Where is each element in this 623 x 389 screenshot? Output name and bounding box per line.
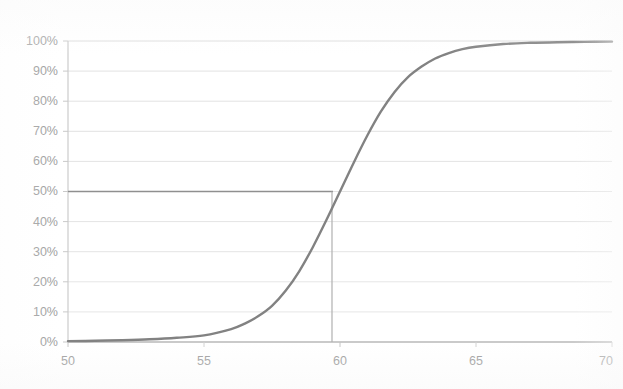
y-tick-label-40: 40% xyxy=(2,215,58,229)
x-axis-ticks xyxy=(68,342,612,347)
y-tick-label-20: 20% xyxy=(2,275,58,289)
chart-container: 100% 90% 80% 70% 60% 50% 40% 30% 20% 10%… xyxy=(0,0,623,389)
x-tick-label-70: 70 xyxy=(586,354,623,368)
y-tick-label-0: 0% xyxy=(2,335,58,349)
chart-plot-area xyxy=(0,0,623,389)
y-tick-label-70: 70% xyxy=(2,124,58,138)
y-tick-label-30: 30% xyxy=(2,245,58,259)
y-tick-label-90: 90% xyxy=(2,64,58,78)
horizontal-gridlines xyxy=(68,41,612,312)
y-tick-label-80: 80% xyxy=(2,94,58,108)
x-tick-label-65: 65 xyxy=(456,354,496,368)
y-tick-label-50: 50% xyxy=(2,184,58,198)
x-tick-label-60: 60 xyxy=(320,354,360,368)
y-tick-label-10: 10% xyxy=(2,305,58,319)
y-tick-label-60: 60% xyxy=(2,154,58,168)
x-tick-label-50: 50 xyxy=(48,354,88,368)
y-tick-label-100: 100% xyxy=(2,34,58,48)
y-axis-ticks xyxy=(63,41,68,342)
x-tick-label-55: 55 xyxy=(184,354,224,368)
